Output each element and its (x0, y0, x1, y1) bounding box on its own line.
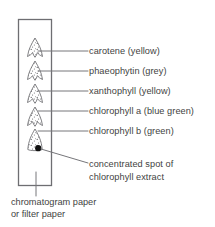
label-chlorophyll-b: chlorophyll b (green) (89, 125, 174, 137)
concentrated-origin-spot (35, 145, 41, 151)
label-carotene: carotene (yellow) (89, 45, 160, 57)
label-chlorophyll-a: chlorophyll a (blue green) (89, 105, 194, 117)
caption-chromatogram-paper-line2: or filter paper (11, 208, 65, 221)
label-phaeophytin: phaeophytin (grey) (89, 65, 167, 77)
label-origin-spot-line2: chlorophyll extract (89, 171, 164, 183)
label-origin-spot-line1: concentrated spot of (89, 158, 173, 170)
label-xanthophyll: xanthophyll (yellow) (89, 85, 171, 97)
caption-chromatogram-paper-line1: chromatogram paper (11, 196, 96, 209)
chromatography-diagram-page: carotene (yellow) phaeophytin (grey) xan… (0, 0, 215, 227)
